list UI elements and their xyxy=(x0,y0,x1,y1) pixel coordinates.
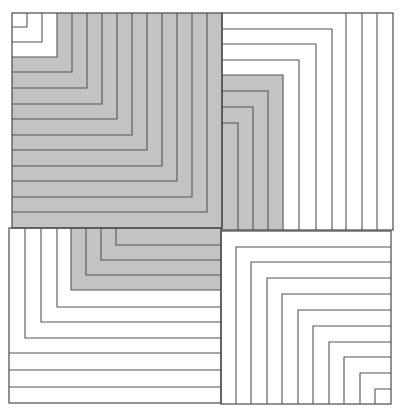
bottom-right-frame xyxy=(221,231,391,404)
white-top-left-corner xyxy=(12,13,57,57)
line-art-diagram xyxy=(0,0,401,414)
shade-bottom-left xyxy=(71,228,221,290)
diagram-svg xyxy=(0,0,401,414)
l-shape-bottom-right xyxy=(251,262,391,404)
l-shape-bottom-right xyxy=(313,326,391,404)
l-shape-bottom-right xyxy=(344,357,391,404)
l-shape-bottom-right xyxy=(375,389,391,404)
